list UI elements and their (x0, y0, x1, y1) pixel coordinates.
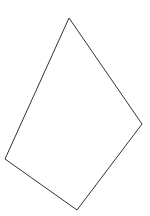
quadrilateral-shape (5, 18, 142, 210)
diagram-canvas (0, 0, 150, 216)
